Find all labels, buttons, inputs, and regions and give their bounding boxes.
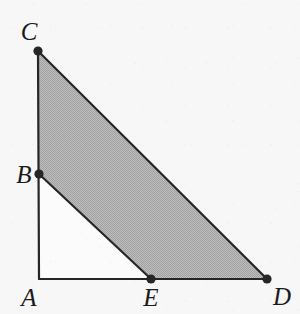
vertex-dot-c [33, 46, 42, 55]
vertex-label-d: D [273, 284, 291, 309]
vertex-dot-e [146, 274, 155, 283]
vertex-label-b: B [16, 162, 31, 187]
geometry-figure: ABCDE [0, 0, 300, 314]
segment-ac [38, 51, 39, 279]
vertex-dot-d [262, 274, 271, 283]
vertex-label-c: C [21, 19, 38, 44]
vertex-label-a: A [21, 285, 36, 310]
geometry-canvas [0, 0, 300, 314]
vertex-label-e: E [143, 285, 158, 310]
vertex-dot-b [34, 169, 43, 178]
